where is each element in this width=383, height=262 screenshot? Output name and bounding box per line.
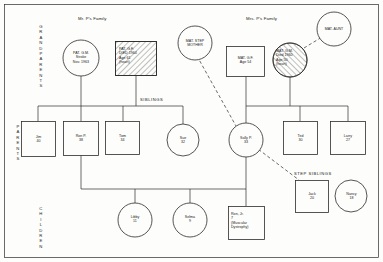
genogram-canvas bbox=[0, 0, 383, 262]
node-ron-p[interactable] bbox=[64, 122, 99, 156]
section-label-step-siblings: STEP SIBLINGS bbox=[294, 171, 332, 176]
node-mat-gf[interactable] bbox=[227, 47, 265, 77]
row-label-children: CHILDREN bbox=[37, 206, 45, 249]
node-mat-aunt[interactable] bbox=[317, 12, 351, 46]
node-ted[interactable] bbox=[284, 122, 318, 155]
node-jim[interactable] bbox=[22, 122, 56, 157]
row-label-parents: PARENTS bbox=[14, 124, 22, 162]
genogram-diagram: Mr. P's Family Mrs. P's Family SIBLINGS … bbox=[0, 0, 383, 262]
node-ron-jr[interactable] bbox=[229, 207, 265, 240]
node-nancy[interactable] bbox=[335, 180, 367, 212]
node-jack[interactable] bbox=[296, 181, 329, 213]
node-larry[interactable] bbox=[331, 122, 366, 155]
node-selma[interactable] bbox=[173, 203, 207, 237]
node-sue[interactable] bbox=[167, 124, 199, 156]
node-tom[interactable] bbox=[106, 122, 140, 155]
pat-gf-deceased-hatch bbox=[116, 42, 157, 76]
node-pat-gm[interactable] bbox=[63, 40, 99, 76]
node-libby[interactable] bbox=[118, 203, 152, 237]
node-sally-p[interactable] bbox=[229, 123, 263, 157]
row-label-grandparents: GRANDPARENTS bbox=[37, 24, 45, 89]
family-title-left: Mr. P's Family bbox=[78, 16, 107, 21]
node-mat-step-mother[interactable] bbox=[178, 26, 212, 60]
family-title-right: Mrs. P's Family bbox=[246, 16, 277, 21]
section-label-siblings: SIBLINGS bbox=[140, 97, 163, 102]
